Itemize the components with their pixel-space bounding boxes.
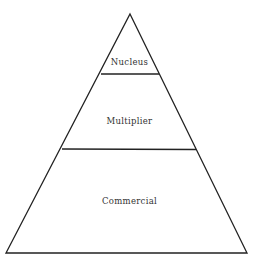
pyramid-outline — [6, 14, 247, 253]
pyramid-shape — [0, 0, 259, 267]
tier-label-multiplier: Multiplier — [0, 116, 259, 126]
tier-label-commercial: Commercial — [0, 196, 259, 206]
divider-bottom — [62, 149, 196, 150]
pyramid-diagram: Nucleus Multiplier Commercial — [0, 0, 259, 267]
tier-label-nucleus: Nucleus — [0, 57, 259, 67]
